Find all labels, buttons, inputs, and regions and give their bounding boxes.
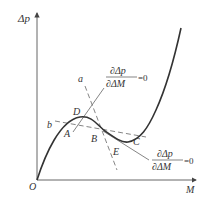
point-b-label: B <box>91 133 97 144</box>
point-a-label: A <box>63 128 71 139</box>
lower-numerator: ∂Δp <box>157 148 173 159</box>
origin-label: O <box>29 181 36 192</box>
lower-derivative-annotation: ∂Δp ∂ΔM =0 <box>152 148 194 172</box>
upper-equals: =0 <box>138 73 148 83</box>
line-b-label: b <box>47 119 52 130</box>
upper-numerator: ∂Δp <box>110 65 126 76</box>
lower-equals: =0 <box>184 156 194 166</box>
x-axis-label: M <box>185 184 195 195</box>
line-a-label: a <box>78 73 83 84</box>
point-e-label: E <box>112 146 119 157</box>
y-axis-label: Δp <box>17 12 30 24</box>
upper-denominator: ∂ΔM <box>106 78 126 89</box>
point-d-label: D <box>72 106 81 117</box>
lower-denominator: ∂ΔM <box>152 161 172 172</box>
diagram-canvas: Δp M O a b A B C D E ∂Δp ∂ΔM =0 ∂Δp ∂ΔM … <box>0 0 210 203</box>
upper-derivative-annotation: ∂Δp ∂ΔM =0 <box>106 65 148 89</box>
point-c-label: C <box>133 136 140 147</box>
